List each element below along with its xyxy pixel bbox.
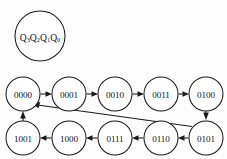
node-label: 0000 [14, 90, 32, 100]
arrow-head-icon [138, 91, 145, 97]
state-node-0001[interactable]: 0001 [52, 77, 86, 111]
arrow-head-icon [20, 111, 26, 119]
arrow-head-icon [183, 91, 190, 97]
arrow-head-icon [203, 113, 209, 121]
arrow-head-icon [178, 135, 185, 141]
edge-0000-to-0001 [41, 91, 53, 97]
edge-1001-to-0000 [20, 111, 26, 121]
edge-0110-to-0111 [132, 135, 144, 141]
state-variable-legend: Q3Q2Q1Q0 [15, 11, 65, 61]
node-label: 0001 [60, 90, 78, 100]
legend-label: Q3Q2Q1Q0 [20, 31, 61, 42]
arrow-head-icon [92, 91, 99, 97]
node-label: 0110 [152, 134, 170, 144]
edge-0010-to-0011 [133, 91, 145, 97]
state-node-0011[interactable]: 0011 [144, 77, 178, 111]
state-node-1000[interactable]: 1000 [52, 121, 86, 155]
edge-0100-to-0101 [203, 111, 209, 120]
node-label: 1000 [60, 134, 78, 144]
state-node-0000[interactable]: 0000 [6, 77, 40, 111]
edge-0001-to-0010 [87, 91, 99, 97]
state-node-0101[interactable]: 0101 [189, 121, 223, 155]
node-label: 1001 [14, 134, 32, 144]
arrow-head-icon [86, 135, 93, 141]
arrow-head-icon [46, 91, 53, 97]
diagram-canvas: Q3Q2Q1Q0 [0, 0, 227, 159]
node-label: 0010 [106, 90, 124, 100]
node-label: 0011 [152, 90, 169, 100]
edge-1000-to-1001 [40, 135, 52, 141]
edge-0111-to-1000 [86, 135, 98, 141]
state-node-0111[interactable]: 0111 [98, 121, 132, 155]
state-node-0100[interactable]: 0100 [189, 77, 223, 111]
edge-0011-to-0100 [179, 91, 190, 97]
arrow-head-icon [132, 135, 139, 141]
state-node-0110[interactable]: 0110 [144, 121, 178, 155]
state-node-0010[interactable]: 0010 [98, 77, 132, 111]
state-node-1001[interactable]: 1001 [6, 121, 40, 155]
arrow-head-icon [40, 135, 47, 141]
node-label: 0111 [106, 134, 123, 144]
node-label: 0101 [197, 134, 215, 144]
node-label: 0100 [197, 90, 215, 100]
state-diagram: Q3Q2Q1Q0 [0, 0, 227, 159]
edge-0101-to-0110 [178, 135, 189, 141]
